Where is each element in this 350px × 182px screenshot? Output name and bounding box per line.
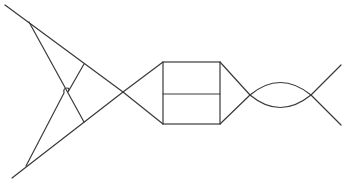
right-cone-upper — [220, 62, 250, 95]
upper-outer-line — [5, 5, 123, 92]
inner-line-from-bottom-vertex — [26, 64, 84, 166]
fish-line-diagram — [0, 0, 350, 182]
tail-upper-line — [311, 65, 341, 95]
tail-lower-line — [311, 95, 341, 125]
cone-upper-line — [123, 62, 163, 92]
lens-upper-arc — [250, 83, 311, 96]
right-cone-lower — [220, 95, 250, 124]
lens-lower-arc — [250, 95, 311, 108]
body-rectangle — [163, 62, 220, 124]
lower-outer-line — [12, 92, 123, 178]
cone-lower-line — [123, 92, 163, 124]
